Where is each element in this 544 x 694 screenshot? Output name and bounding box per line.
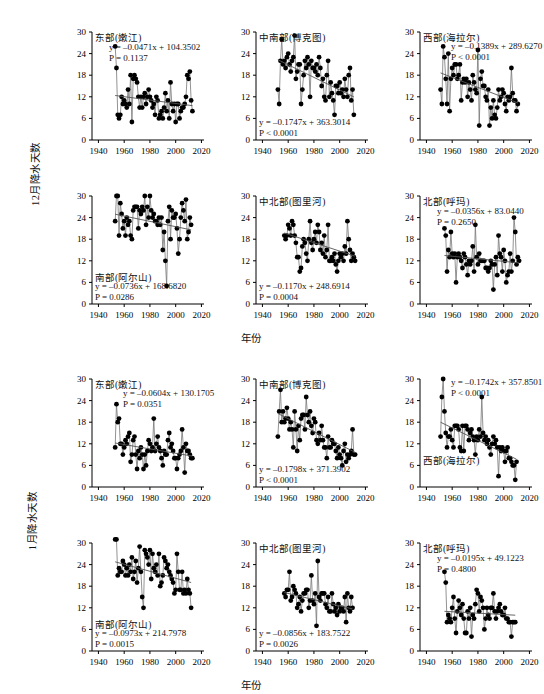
panel-title-zhongbeibu-tulihe: 中北部(图里河) (259, 541, 325, 555)
svg-text:1960: 1960 (443, 310, 462, 320)
svg-text:2020: 2020 (192, 657, 211, 667)
svg-text:1980: 1980 (141, 657, 160, 667)
svg-text:18: 18 (405, 70, 415, 80)
svg-text:24: 24 (77, 49, 87, 59)
svg-text:1940: 1940 (89, 657, 108, 667)
svg-text:24: 24 (405, 396, 415, 406)
svg-text:18: 18 (241, 417, 251, 427)
svg-text:1940: 1940 (89, 493, 108, 503)
panel-title-zhongbeibu-tulihe: 中北部(图里河) (259, 194, 325, 208)
y-axis-label-january: 1月降水天数 (24, 491, 39, 549)
svg-text:2000: 2000 (495, 493, 514, 503)
svg-text:1940: 1940 (89, 146, 108, 156)
svg-text:2000: 2000 (167, 657, 186, 667)
svg-text:1940: 1940 (89, 310, 108, 320)
svg-text:30: 30 (405, 191, 415, 201)
panel-equation-beibu-huma: y = –0.0356x + 83.0440 (437, 206, 524, 216)
svg-text:18: 18 (241, 581, 251, 591)
panel-january-zhongbeibu-tulihe: 061218243019401960198020002020中北部(图里河)y … (222, 533, 380, 675)
svg-text:12: 12 (241, 92, 250, 102)
svg-text:12: 12 (77, 92, 86, 102)
svg-text:1980: 1980 (469, 493, 488, 503)
svg-text:2020: 2020 (356, 310, 375, 320)
svg-text:2020: 2020 (520, 493, 539, 503)
svg-text:30: 30 (77, 374, 87, 384)
panel-pvalue-nanbu-aershan: P = 0.0286 (95, 292, 134, 302)
svg-text:1940: 1940 (417, 493, 436, 503)
svg-text:24: 24 (405, 213, 415, 223)
svg-text:6: 6 (82, 624, 87, 634)
svg-text:24: 24 (241, 213, 251, 223)
svg-text:1960: 1960 (115, 657, 133, 667)
panel-pvalue-beibu-huma: P = 0.4800 (437, 564, 476, 574)
figure-january: 1月降水天数 年份 061218243019401960198020002020… (0, 347, 502, 694)
svg-text:1960: 1960 (279, 146, 298, 156)
svg-text:12: 12 (77, 439, 86, 449)
svg-text:30: 30 (241, 538, 251, 548)
panel-title-zhongnanbu-boketu: 中南部(博克图) (259, 377, 325, 391)
panel-pvalue-beibu-huma: P = 0.2650 (437, 217, 476, 227)
svg-text:1980: 1980 (141, 493, 160, 503)
panel-january-dongbu-nenjiang: 061218243019401960198020002020东部(嫩江)y = … (58, 369, 216, 511)
svg-text:2020: 2020 (356, 146, 375, 156)
svg-text:12: 12 (77, 256, 86, 266)
svg-text:1940: 1940 (253, 310, 271, 320)
svg-text:0: 0 (246, 299, 251, 309)
svg-text:30: 30 (77, 538, 87, 548)
svg-text:18: 18 (77, 417, 87, 427)
panel-january-xibu-hailaer: 061218243019401960198020002020西部(海拉尔)y =… (386, 369, 544, 511)
svg-text:2000: 2000 (167, 310, 186, 320)
svg-text:18: 18 (405, 581, 415, 591)
panel-equation-zhongnanbu-boketu: y = –0.1747x + 363.3014 (259, 117, 350, 127)
panel-december-zhongnanbu-boketu: 061218243019401960198020002020中南部(博克图)y … (222, 22, 380, 164)
svg-text:6: 6 (82, 460, 87, 470)
svg-text:24: 24 (77, 213, 87, 223)
svg-text:1980: 1980 (469, 310, 488, 320)
panel-equation-beibu-huma: y = –0.0195x + 49.1223 (437, 553, 524, 563)
panel-january-nanbu-aershan: 061218243019401960198020002020南部(阿尔山)y =… (58, 533, 216, 675)
svg-text:12: 12 (241, 256, 250, 266)
svg-text:6: 6 (410, 624, 415, 634)
svg-text:1980: 1980 (141, 146, 160, 156)
svg-text:6: 6 (246, 277, 251, 287)
panel-equation-zhongbeibu-tulihe: y = –0.0856x + 183.7522 (259, 628, 350, 638)
svg-text:2000: 2000 (167, 493, 186, 503)
svg-text:24: 24 (241, 396, 251, 406)
panel-december-dongbu-nenjiang: 061218243019401960198020002020东部(嫩江)y = … (58, 22, 216, 164)
svg-text:12: 12 (241, 439, 250, 449)
svg-text:1960: 1960 (279, 310, 298, 320)
svg-text:0: 0 (410, 299, 415, 309)
svg-text:1940: 1940 (253, 657, 271, 667)
svg-text:12: 12 (405, 256, 414, 266)
svg-text:0: 0 (82, 646, 87, 656)
svg-text:6: 6 (82, 113, 87, 123)
svg-text:2020: 2020 (520, 310, 539, 320)
svg-text:6: 6 (246, 624, 251, 634)
svg-text:2000: 2000 (331, 146, 350, 156)
svg-text:2020: 2020 (520, 146, 539, 156)
svg-text:18: 18 (241, 234, 251, 244)
svg-text:12: 12 (241, 603, 250, 613)
svg-text:12: 12 (405, 439, 414, 449)
panel-equation-nanbu-aershan: y = –0.0736x + 168.6820 (95, 281, 186, 291)
svg-text:12: 12 (77, 603, 86, 613)
svg-text:2020: 2020 (192, 310, 211, 320)
panel-title-zhongnanbu-boketu: 中南部(博克图) (259, 30, 325, 44)
svg-text:1960: 1960 (279, 657, 298, 667)
svg-text:1980: 1980 (305, 493, 324, 503)
panel-pvalue-xibu-hailaer: P < 0.0001 (451, 388, 490, 398)
svg-text:24: 24 (405, 49, 415, 59)
svg-text:2020: 2020 (356, 493, 375, 503)
svg-text:1940: 1940 (417, 146, 436, 156)
svg-text:1960: 1960 (115, 493, 133, 503)
panel-pvalue-zhongbeibu-tulihe: P = 0.0004 (259, 292, 298, 302)
svg-text:1940: 1940 (253, 146, 271, 156)
y-axis-label-december: 12月降水天数 (27, 142, 42, 206)
svg-text:2020: 2020 (192, 493, 211, 503)
panel-equation-dongbu-nenjiang: y = –0.0604x + 130.1705 (123, 388, 214, 398)
svg-text:6: 6 (410, 277, 415, 287)
svg-text:6: 6 (246, 113, 251, 123)
svg-text:30: 30 (77, 27, 87, 37)
panel-january-beibu-huma: 061218243019401960198020002020北部(呼玛)y = … (386, 533, 544, 675)
svg-text:18: 18 (405, 417, 415, 427)
